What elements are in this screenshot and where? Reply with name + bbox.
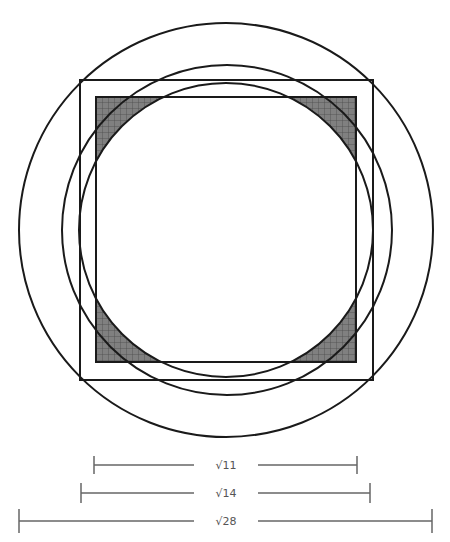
measure-label-sqrt28: √28 [215, 515, 236, 528]
measure-label-sqrt11: √11 [215, 459, 236, 472]
shaded-corners [96, 97, 356, 362]
measure-label-sqrt14: √14 [215, 487, 236, 500]
geometry-diagram: √11 √14 √28 [0, 0, 450, 542]
